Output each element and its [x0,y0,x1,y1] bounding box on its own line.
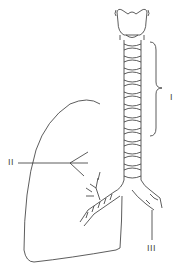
larynx [115,9,149,40]
lung-outline [24,100,122,262]
leader-II [18,152,88,176]
bracket-I [150,42,162,136]
respiratory-diagram [0,0,179,279]
trachea [124,40,141,180]
label-II: II [8,158,14,167]
label-I: I [170,93,173,102]
bronchi [80,172,162,226]
label-III: III [147,244,156,253]
